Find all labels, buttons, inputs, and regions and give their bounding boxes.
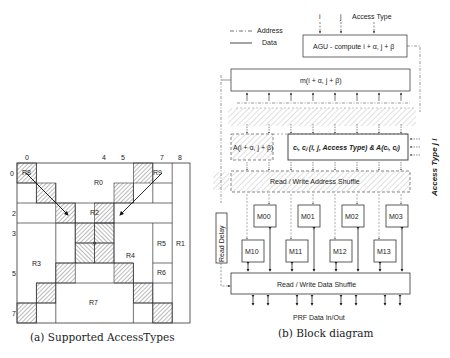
prf-label: PRF Data In/Out — [293, 314, 345, 321]
data-shuffle-label: Read / Write Data Shuffle — [277, 281, 356, 288]
col-label-8: 8 — [178, 154, 182, 161]
col-label-0: 0 — [25, 154, 29, 161]
memory-modules-top: M00 M01 M02 M03 — [254, 205, 408, 227]
region-r0: R0 — [94, 179, 103, 186]
row-label-0: 0 — [10, 170, 14, 177]
row-label-5: 5 — [12, 270, 16, 277]
region-r4: R4 — [126, 252, 135, 259]
region-r5: R5 — [157, 240, 166, 247]
row-label-7: 7 — [12, 310, 16, 317]
region-r1: R1 — [176, 240, 185, 247]
c-label: cᵢ, cⱼ (i, j, Access Type) & A(cᵢ, cⱼ) — [293, 144, 400, 152]
module-m12: M12 — [333, 248, 347, 255]
region-r2: R2 — [90, 209, 99, 216]
legend-data: Data — [262, 39, 277, 46]
col-label-5: 5 — [121, 154, 125, 161]
module-m01: M01 — [301, 213, 315, 220]
a-label: A(i + α, j + β) — [233, 144, 273, 152]
caption-a: (a) Supported AccessTypes — [30, 331, 175, 343]
module-m13: M13 — [377, 248, 391, 255]
module-m02: M02 — [345, 213, 359, 220]
block-diagram: Address Data i j Access Type AGU - compu… — [213, 13, 439, 339]
read-delay-label: Read Delay — [218, 225, 226, 262]
figure-canvas: R0 R1 R2 R3 R4 R5 R6 R7 R8 R9 0 4 5 7 8 … — [0, 0, 450, 358]
m-label: m(i + α, j + β) — [300, 77, 342, 85]
access-types-grid: R0 R1 R2 R3 R4 R5 R6 R7 R8 R9 0 4 5 7 8 … — [10, 154, 190, 343]
hatched-band — [228, 108, 416, 126]
region-r6: R6 — [157, 269, 166, 276]
input-j: j — [339, 13, 342, 21]
module-m00: M00 — [257, 213, 271, 220]
agu-label: AGU - compute i + α, j + β — [313, 43, 394, 51]
memory-modules-bottom: M10 M11 M12 M13 — [242, 240, 396, 262]
address-shuffle-label: Read / Write Address Shuffle — [270, 178, 360, 185]
col-label-4: 4 — [102, 154, 106, 161]
input-access-type: Access Type — [352, 13, 392, 21]
col-label-7: 7 — [160, 154, 164, 161]
region-r9: R9 — [153, 169, 162, 176]
legend-address: Address — [257, 27, 283, 34]
module-m03: M03 — [389, 213, 403, 220]
row-label-3: 3 — [12, 230, 16, 237]
module-m10: M10 — [245, 248, 259, 255]
input-i: i — [319, 13, 321, 20]
region-r8: R8 — [22, 169, 31, 176]
arrow-icon — [26, 173, 68, 215]
region-r7: R7 — [89, 299, 98, 306]
row-label-2: 2 — [12, 210, 16, 217]
caption-b: (b) Block diagram — [278, 327, 374, 339]
region-r3: R3 — [32, 260, 41, 267]
side-access-type-label: Access Type j i — [430, 138, 439, 197]
module-m11: M11 — [289, 248, 302, 255]
